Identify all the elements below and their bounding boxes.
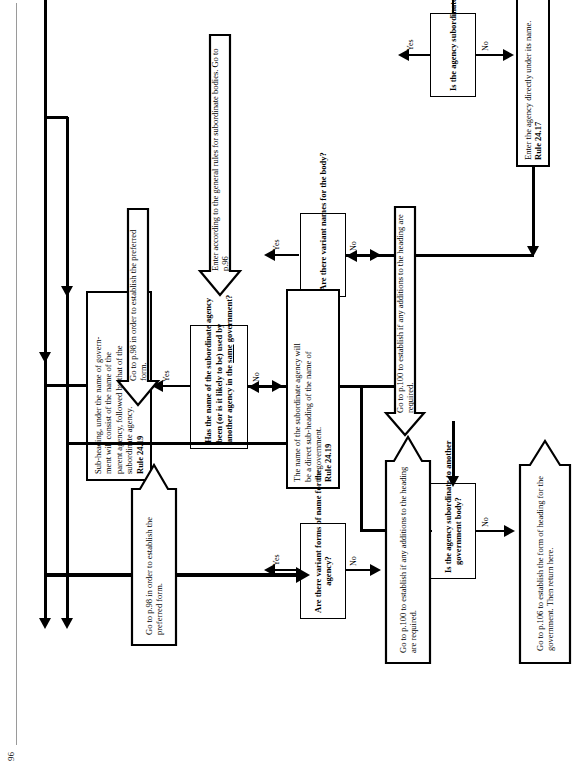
q1-text: Is the agency subordinate to another gov… — [448, 19, 458, 91]
page-edge-line — [16, 3, 17, 745]
q3-line3-underlined: same — [224, 344, 234, 362]
edge-label-no-4: No — [481, 517, 490, 527]
q3-line2: been (or is it likely to be) used by — [214, 331, 224, 443]
action-goto-p100-additions-2[interactable]: Go to p.100 to establish if any addition… — [382, 435, 434, 667]
action-goto-p100-additions-1[interactable]: Go to p.100 to establish if any addition… — [382, 205, 428, 437]
page-number: 96 — [6, 752, 16, 761]
edge-q3-yes-vertical — [160, 385, 190, 387]
q4-line2: government body? — [453, 489, 463, 573]
edge-q4-yes-to-q3 — [360, 386, 363, 532]
question-agency-subordinate-1[interactable]: Is the agency subordinate to another gov… — [430, 13, 476, 97]
edge-q1-yes-vertical — [406, 54, 431, 56]
edge-label-no-5: No — [349, 556, 358, 566]
edge-q5-no-vertical — [346, 569, 372, 571]
a5b-line1: Go to p.100 to establish if any addition… — [398, 517, 408, 653]
action-enter-general-rules-subordinate[interactable]: Enter according to the general rules for… — [196, 33, 244, 297]
action-direct-subheading-government[interactable]: The name of the subordinate agency will … — [286, 289, 340, 489]
edge-q2-no-vertical — [346, 254, 372, 256]
a3-line1: Sub-heading, under the name of govern- — [93, 298, 103, 474]
edge-q3-no-arrowhead — [272, 380, 283, 392]
q5-line2: agency? — [323, 529, 333, 613]
q3-line3: another agency in the same government? — [224, 331, 234, 443]
edge-q4-no-vertical — [476, 530, 506, 532]
action-goto-p98-preferred-form-1[interactable]: Go to p.98 in order to establish the pre… — [114, 207, 162, 407]
a4-line3: here. — [545, 548, 555, 565]
edge-q3-no-vertical — [248, 385, 274, 387]
q5-line1: Are there variant forms of name for the — [313, 529, 323, 613]
edge-into-q4 — [452, 421, 455, 483]
a1-rule: Rule 24.17 — [533, 4, 543, 160]
q2-text: Are there variant names for the body? — [318, 219, 328, 291]
a3b-line1: The name of the subordinate agency will — [292, 296, 302, 482]
top-rail-2-arrow-left — [61, 618, 73, 629]
edge-into-q4-arrowhead — [447, 476, 459, 487]
a2-line1: Go to p.98 in order to establish the — [128, 263, 138, 381]
question-name-used-by-another-agency[interactable]: Has the name of the subordinate agency b… — [190, 325, 248, 449]
a2b-line1: Go to p.100 to establish if any addition… — [395, 277, 405, 413]
edge-label-yes-3: Yes — [162, 370, 171, 382]
question-agency-subordinate-2[interactable]: Is the agency subordinate to another gov… — [430, 483, 476, 579]
a3b-rule: Rule 24.19 — [323, 296, 333, 482]
edge-a3b-riser — [66, 442, 288, 445]
top-rail-1-arrow-left — [39, 618, 51, 629]
edge-label-yes-1: Yes — [406, 39, 415, 51]
a1-line1: Enter the agency directly under its name… — [523, 4, 533, 160]
edge-label-no-1: No — [481, 41, 490, 51]
q3-line1: Has the name of the subordinate agency — [203, 331, 213, 443]
edge-q5-no-arrowhead — [370, 564, 381, 576]
a3b-line3: the government. — [313, 296, 323, 482]
top-rail-1 — [44, 0, 47, 621]
action-enter-agency-directly[interactable]: Enter the agency directly under its name… — [516, 0, 550, 167]
edge-q4-no-arrowhead — [504, 525, 515, 537]
top-rail-2-arrow-mid — [61, 286, 73, 297]
edge-q2-no-arrowhead — [370, 249, 381, 261]
action-goto-p98-preferred-form-2[interactable]: Go to p.98 in order to establish the pre… — [128, 463, 180, 649]
top-rail-1-arrow-mid — [39, 352, 51, 363]
edge-label-no-3: No — [252, 372, 261, 382]
a4-line1: Go to p.106 to establish the form of — [535, 530, 545, 651]
a5-line1: Go to p.98 in order to establish — [144, 529, 154, 635]
edge-label-no-2: No — [349, 241, 358, 251]
edge-q5-yes-vertical — [272, 569, 300, 571]
edge-label-yes-2: Yes — [272, 239, 281, 251]
trunk-to-q3-arrowhead — [248, 381, 259, 393]
top-rail-2 — [66, 117, 69, 621]
right-riser-to-rails — [44, 116, 68, 119]
question-variant-names-body[interactable]: Are there variant names for the body? — [300, 213, 346, 297]
edge-a1-to-merge — [532, 165, 535, 247]
q3-line3-pre: another agency in the — [224, 363, 234, 443]
edge-q1-no-vertical — [476, 54, 504, 56]
a3b-line2: be a direct sub-heading of the name of — [303, 296, 313, 482]
edge-label-yes-5: Yes — [272, 554, 281, 566]
trunk-to-q2-arrowhead — [346, 250, 357, 262]
action-goto-p106-government-form[interactable]: Go to p.106 to establish the form of hea… — [516, 439, 574, 667]
a3-line2: ment will consist of the name of the — [103, 298, 113, 474]
a1b-line1: Enter according to the general rules for… — [210, 70, 220, 271]
q3-line3-post: government? — [224, 295, 234, 345]
edge-q2-yes-vertical — [272, 254, 299, 256]
q4-line1: Is the agency subordinate to another — [443, 489, 453, 573]
entry-line — [452, 0, 454, 13]
edge-q1-no-arrowhead — [503, 49, 514, 61]
